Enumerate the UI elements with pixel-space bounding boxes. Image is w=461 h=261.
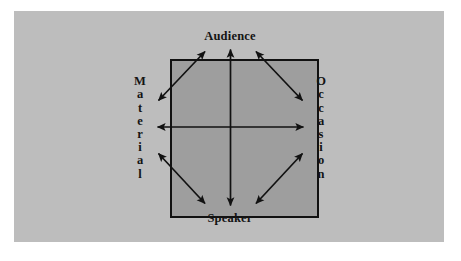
label-glyph-6: o xyxy=(318,154,324,167)
label-glyph-1: c xyxy=(318,88,324,101)
model-square xyxy=(170,59,319,218)
label-glyph-2: t xyxy=(138,102,142,115)
figure-root: Audience Speaker Material Occasion xyxy=(0,0,461,261)
label-speaker: Speaker xyxy=(0,212,461,225)
label-glyph-6: a xyxy=(137,154,143,167)
label-material: Material xyxy=(131,56,149,200)
label-glyph-1: a xyxy=(137,88,143,101)
label-glyph-7: n xyxy=(318,168,325,181)
figure-plate xyxy=(14,11,444,242)
label-glyph-7: l xyxy=(138,168,141,181)
label-occasion: Occasion xyxy=(312,56,330,200)
label-audience: Audience xyxy=(0,30,461,43)
label-glyph-2: c xyxy=(318,102,324,115)
